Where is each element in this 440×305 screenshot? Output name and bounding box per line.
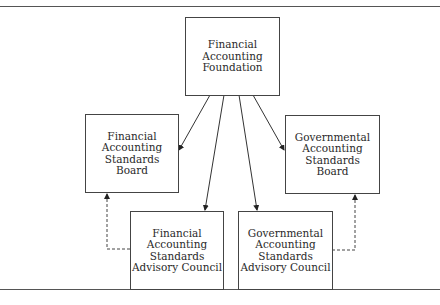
edge-faf-fasb <box>179 95 210 150</box>
node-label: Financial Accounting Standards Advisory … <box>132 228 222 274</box>
edge-gasac-gasb <box>332 195 355 250</box>
node-label: Governmental Accounting Standards Adviso… <box>240 228 330 274</box>
node-fasb: Financial Accounting Standards Board <box>85 114 179 193</box>
node-label: Governmental Accounting Standards Board <box>295 132 370 178</box>
node-gasb: Governmental Accounting Standards Board <box>285 115 380 194</box>
node-label: Financial Accounting Standards Board <box>102 131 162 177</box>
edge-faf-gasb <box>253 95 284 150</box>
node-label: Financial Accounting Foundation <box>202 39 262 74</box>
edge-fasac-fasb <box>107 194 130 249</box>
node-gasac: Governmental Accounting Standards Adviso… <box>238 211 333 290</box>
edge-faf-fasac <box>205 95 224 210</box>
edge-faf-gasac <box>239 95 257 210</box>
node-fasac: Financial Accounting Standards Advisory … <box>130 211 224 290</box>
node-financial-accounting-foundation: Financial Accounting Foundation <box>185 17 280 96</box>
